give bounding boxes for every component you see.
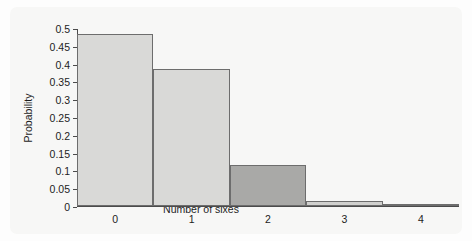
y-tick-label: 0 <box>64 201 70 213</box>
x-tick-label: 1 <box>189 213 195 225</box>
y-tick-label: 0.25 <box>50 112 70 124</box>
y-tick-label: 0.35 <box>50 76 70 88</box>
chart-panel: Probability Number of sixes 00.050.10.15… <box>10 7 462 234</box>
y-tick-label: 0.45 <box>50 41 70 53</box>
y-tick-label: 0.4 <box>55 59 70 71</box>
bar <box>306 201 382 206</box>
bar <box>230 165 306 206</box>
plot-area: 00.050.10.150.20.250.30.350.40.450.5 012… <box>77 29 459 207</box>
y-tick-label: 0.15 <box>50 148 70 160</box>
y-tick-label: 0.2 <box>55 130 70 142</box>
y-tick-label: 0.05 <box>50 183 70 195</box>
x-tick-label: 4 <box>418 213 424 225</box>
y-tick-label: 0.1 <box>55 165 70 177</box>
bar <box>383 204 459 206</box>
y-tick-label: 0.5 <box>55 23 70 35</box>
figure-page: Probability Number of sixes 00.050.10.15… <box>0 0 472 241</box>
bar <box>153 69 229 206</box>
y-axis-title: Probability <box>22 93 34 142</box>
bar <box>77 34 153 206</box>
x-tick-label: 3 <box>341 213 347 225</box>
x-axis-line <box>77 206 459 207</box>
y-tick-mark <box>73 207 77 208</box>
x-tick-label: 2 <box>265 213 271 225</box>
y-tick-label: 0.3 <box>55 94 70 106</box>
y-tick-mark <box>73 29 77 30</box>
x-tick-label: 0 <box>112 213 118 225</box>
